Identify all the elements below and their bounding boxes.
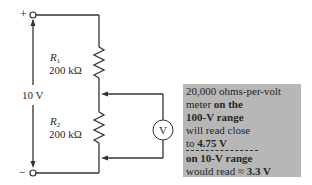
note-line-4: will read close [186, 124, 298, 137]
note-line-6: on 10-V range [186, 152, 298, 165]
note-line-7: would read ≈ 3.3 V [186, 165, 298, 178]
annotation-box: 20,000 ohms-per-volt meter on the 100-V … [183, 84, 301, 177]
resistor-r1 [94, 47, 104, 78]
positive-terminal [30, 12, 36, 18]
note-line-3: 100-V range [186, 111, 298, 124]
note-line-2: meter on the [186, 98, 298, 111]
voltmeter-label: V [159, 124, 167, 136]
resistor-r2 [94, 112, 104, 143]
source-voltage-label: 10 V [22, 89, 44, 101]
positive-sign: + [20, 8, 27, 20]
r2-value: 200 kΩ [49, 128, 82, 140]
note-line-1: 20,000 ohms-per-volt [186, 85, 298, 98]
r1-value: 200 kΩ [49, 64, 82, 76]
negative-sign: − [19, 166, 26, 178]
note-line-5: to 4.75 V [186, 137, 298, 150]
negative-terminal [30, 170, 36, 176]
